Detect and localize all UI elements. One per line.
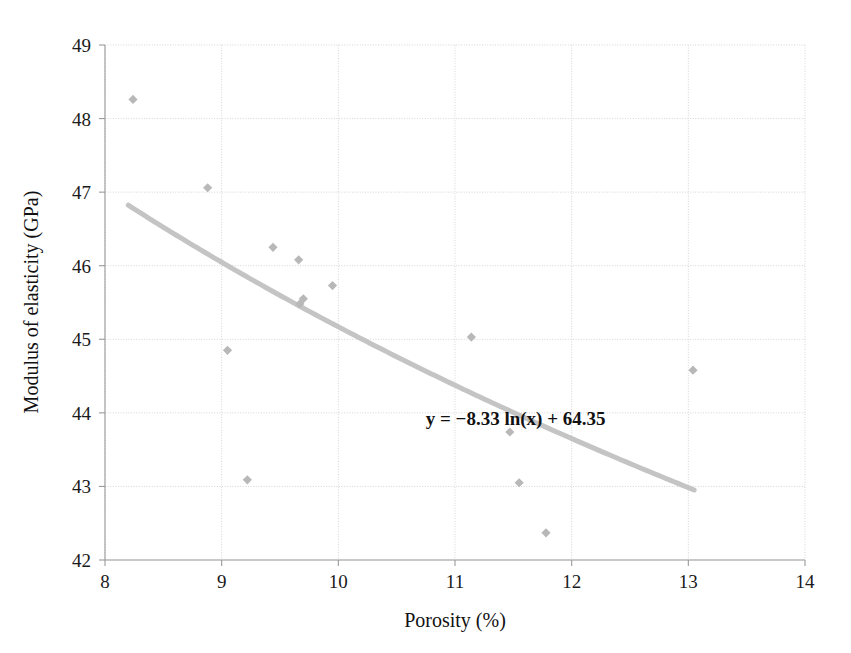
trendline — [128, 205, 694, 490]
data-point-marker — [328, 281, 337, 290]
trendline-path — [128, 205, 694, 490]
x-tick-label: 8 — [100, 571, 110, 592]
data-point-marker — [203, 183, 212, 192]
grid-lines — [105, 45, 805, 560]
data-point-marker — [128, 95, 137, 104]
y-tick-label: 43 — [72, 476, 91, 497]
y-tick-label: 48 — [72, 109, 91, 130]
y-tick-label: 47 — [72, 182, 91, 203]
chart-page: 891011121314 4243444546474849 y = −8.33 … — [0, 0, 851, 653]
data-point-marker — [223, 346, 232, 355]
y-tick-label: 45 — [72, 329, 91, 350]
x-tick-label: 11 — [446, 571, 464, 592]
y-tick-label: 49 — [72, 35, 91, 56]
data-point-marker — [541, 528, 550, 537]
data-point-marker — [467, 332, 476, 341]
tick-marks — [99, 45, 805, 566]
x-tick-label: 10 — [329, 571, 348, 592]
y-axis-title: Modulus of elasticity (GPa) — [20, 191, 43, 414]
y-tick-label: 46 — [72, 256, 91, 277]
x-tick-label: 14 — [796, 571, 816, 592]
data-point-marker — [294, 255, 303, 264]
trendline-equation-label: y = −8.33 ln(x) + 64.35 — [426, 408, 606, 430]
y-tick-label: 42 — [72, 550, 91, 571]
x-tick-label: 13 — [679, 571, 698, 592]
data-points — [128, 95, 697, 538]
data-point-marker — [243, 475, 252, 484]
x-tick-labels: 891011121314 — [100, 571, 815, 592]
data-point-marker — [268, 243, 277, 252]
scatter-chart: 891011121314 4243444546474849 y = −8.33 … — [0, 0, 851, 653]
data-point-marker — [688, 366, 697, 375]
y-tick-labels: 4243444546474849 — [72, 35, 92, 571]
x-axis-title: Porosity (%) — [404, 609, 506, 632]
equation-annotation: y = −8.33 ln(x) + 64.35 — [426, 408, 606, 430]
x-tick-label: 9 — [217, 571, 227, 592]
x-tick-label: 12 — [562, 571, 581, 592]
y-tick-label: 44 — [72, 403, 92, 424]
